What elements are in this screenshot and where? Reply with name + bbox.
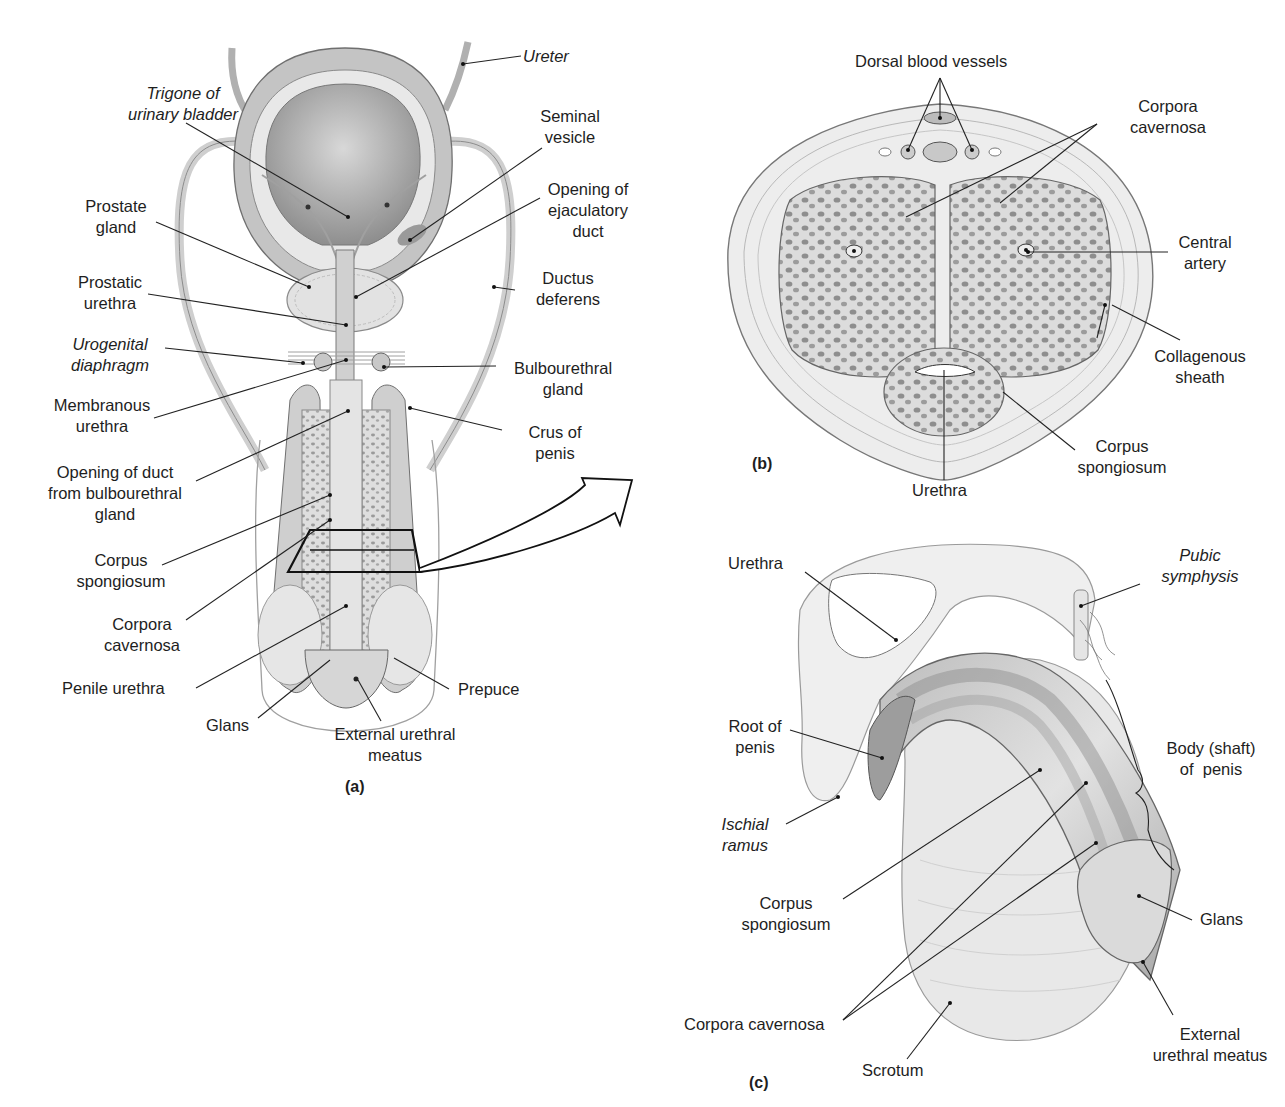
label-corpus-spongiosum-a: Corpus spongiosum bbox=[66, 550, 176, 592]
label-line: urethra bbox=[42, 416, 162, 437]
label-line: Pubic bbox=[1150, 545, 1250, 566]
label-line: Prostatic bbox=[60, 272, 160, 293]
label-seminal-vesicle: Seminal vesicle bbox=[520, 106, 620, 148]
label-urethra-c: Urethra bbox=[728, 553, 783, 574]
label-line: penis bbox=[720, 737, 790, 758]
panel-c-drawing bbox=[798, 544, 1180, 1040]
label-line: Crus of bbox=[510, 422, 600, 443]
label-line: gland bbox=[30, 504, 200, 525]
label-line: Body (shaft) bbox=[1152, 738, 1270, 759]
label-line: Corpora bbox=[1108, 96, 1228, 117]
label-line: Trigone of bbox=[88, 83, 278, 104]
label-glans-c: Glans bbox=[1200, 909, 1243, 930]
label-line: spongiosum bbox=[1062, 457, 1182, 478]
label-corpora-cavernosa-b: Corpora cavernosa bbox=[1108, 96, 1228, 138]
label-line: Ductus bbox=[518, 268, 618, 289]
label-line: urinary bladder bbox=[88, 104, 278, 125]
label-line: spongiosum bbox=[66, 571, 176, 592]
label-pubic-symphysis: Pubic symphysis bbox=[1150, 545, 1250, 587]
label-prostate-gland: Prostate gland bbox=[66, 196, 166, 238]
label-bulbourethral-gland: Bulbourethral gland bbox=[500, 358, 626, 400]
label-ureter: Ureter bbox=[523, 46, 569, 67]
label-dorsal-blood-vessels: Dorsal blood vessels bbox=[855, 51, 1007, 72]
label-membranous-urethra: Membranous urethra bbox=[42, 395, 162, 437]
label-line: Corpus bbox=[1062, 436, 1182, 457]
label-urethra-b: Urethra bbox=[912, 480, 967, 501]
label-line: gland bbox=[66, 217, 166, 238]
label-line: Root of bbox=[720, 716, 790, 737]
label-line: cavernosa bbox=[1108, 117, 1228, 138]
panel-letter-b: (b) bbox=[752, 455, 772, 473]
label-ischial-ramus: Ischial ramus bbox=[710, 814, 780, 856]
label-glans-a: Glans bbox=[206, 715, 249, 736]
label-line: sheath bbox=[1140, 367, 1260, 388]
label-corpora-cavernosa-c: Corpora cavernosa bbox=[684, 1014, 824, 1035]
label-line: deferens bbox=[518, 289, 618, 310]
label-line: ejaculatory bbox=[528, 200, 648, 221]
label-collagenous-sheath: Collagenous sheath bbox=[1140, 346, 1260, 388]
label-external-urethral-meatus-a: External urethral meatus bbox=[310, 724, 480, 766]
label-line: External bbox=[1140, 1024, 1280, 1045]
label-line: from bulbourethral bbox=[30, 483, 200, 504]
label-line: spongiosum bbox=[726, 914, 846, 935]
label-line: duct bbox=[528, 221, 648, 242]
label-line: ramus bbox=[710, 835, 780, 856]
label-line: penis bbox=[510, 443, 600, 464]
label-line: cavernosa bbox=[92, 635, 192, 656]
label-line: diaphragm bbox=[50, 355, 170, 376]
panel-b-drawing bbox=[728, 104, 1153, 480]
label-line: gland bbox=[500, 379, 626, 400]
panel-letter-a: (a) bbox=[345, 778, 365, 796]
label-ductus-deferens: Ductus deferens bbox=[518, 268, 618, 310]
label-line: Seminal bbox=[520, 106, 620, 127]
label-corpus-spongiosum-c: Corpus spongiosum bbox=[726, 893, 846, 935]
label-corpus-spongiosum-b: Corpus spongiosum bbox=[1062, 436, 1182, 478]
label-line: Urogenital bbox=[50, 334, 170, 355]
label-line: Corpus bbox=[66, 550, 176, 571]
label-crus-of-penis: Crus of penis bbox=[510, 422, 600, 464]
label-line: meatus bbox=[310, 745, 480, 766]
label-line: Collagenous bbox=[1140, 346, 1260, 367]
label-line: Opening of bbox=[528, 179, 648, 200]
label-opening-of-ejaculatory-duct: Opening of ejaculatory duct bbox=[528, 179, 648, 242]
label-line: Ischial bbox=[710, 814, 780, 835]
label-line: of penis bbox=[1152, 759, 1270, 780]
label-line: Corpus bbox=[726, 893, 846, 914]
label-body-shaft-of-penis: Body (shaft) of penis bbox=[1152, 738, 1270, 780]
label-line: Central bbox=[1168, 232, 1242, 253]
label-root-of-penis: Root of penis bbox=[720, 716, 790, 758]
label-external-urethral-meatus-c: External urethral meatus bbox=[1140, 1024, 1280, 1066]
label-prepuce: Prepuce bbox=[458, 679, 519, 700]
label-opening-of-duct-from-bulbourethral-gland: Opening of duct from bulbourethral gland bbox=[30, 462, 200, 525]
label-line: External urethral bbox=[310, 724, 480, 745]
label-trigone-of-urinary-bladder: Trigone of urinary bladder bbox=[88, 83, 278, 125]
label-corpora-cavernosa-a: Corpora cavernosa bbox=[92, 614, 192, 656]
label-line: Membranous bbox=[42, 395, 162, 416]
label-line: Prostate bbox=[66, 196, 166, 217]
label-line: Opening of duct bbox=[30, 462, 200, 483]
label-line: Corpora bbox=[92, 614, 192, 635]
label-line: symphysis bbox=[1150, 566, 1250, 587]
label-scrotum: Scrotum bbox=[862, 1060, 923, 1081]
label-penile-urethra: Penile urethra bbox=[62, 678, 165, 699]
anatomy-illustration bbox=[0, 0, 1285, 1107]
label-line: vesicle bbox=[520, 127, 620, 148]
label-prostatic-urethra: Prostatic urethra bbox=[60, 272, 160, 314]
label-central-artery: Central artery bbox=[1168, 232, 1242, 274]
label-line: Bulbourethral bbox=[500, 358, 626, 379]
label-urogenital-diaphragm: Urogenital diaphragm bbox=[50, 334, 170, 376]
label-line: artery bbox=[1168, 253, 1242, 274]
label-line: urethral meatus bbox=[1140, 1045, 1280, 1066]
panel-letter-c: (c) bbox=[749, 1074, 769, 1092]
label-line: urethra bbox=[60, 293, 160, 314]
